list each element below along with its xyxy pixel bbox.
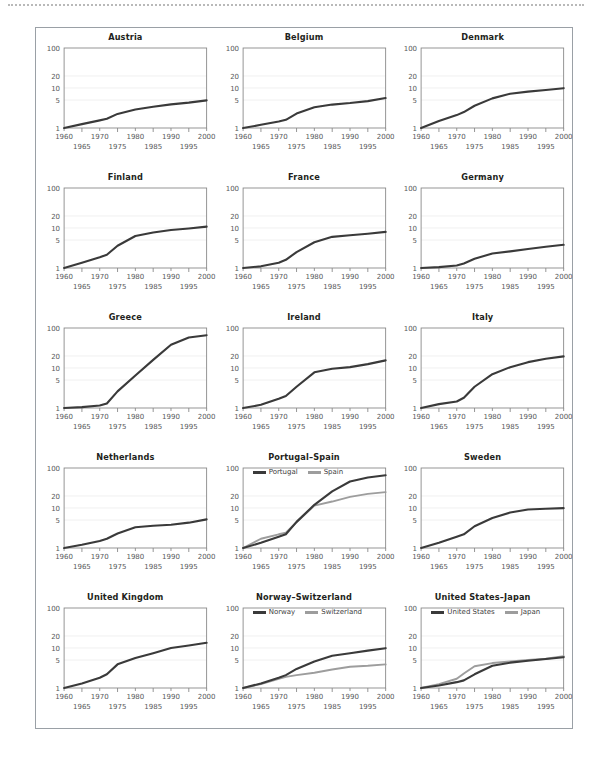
svg-text:1960: 1960 (234, 132, 252, 141)
svg-text:10: 10 (51, 504, 60, 513)
svg-text:1975: 1975 (109, 422, 127, 431)
svg-text:1965: 1965 (73, 282, 91, 291)
plot-area: 1510201001960197019801990200019651975198… (393, 602, 572, 718)
svg-text:100: 100 (47, 44, 60, 53)
panel-title: France (215, 172, 394, 182)
svg-text:2000: 2000 (198, 552, 216, 561)
svg-text:1990: 1990 (162, 552, 180, 561)
svg-text:1965: 1965 (252, 142, 270, 151)
legend-item: Norway (253, 608, 296, 616)
svg-text:1980: 1980 (126, 412, 144, 421)
legend-swatch-icon (305, 611, 318, 614)
svg-text:100: 100 (225, 184, 238, 193)
chart-panel: United States–Japan151020100196019701980… (393, 588, 572, 728)
chart-panel: France1510201001960197019801990200019651… (215, 168, 394, 308)
svg-text:1990: 1990 (341, 132, 359, 141)
chart-panel: Finland151020100196019701980199020001965… (36, 168, 215, 308)
svg-text:5: 5 (56, 656, 60, 665)
svg-text:10: 10 (230, 84, 239, 93)
svg-text:100: 100 (404, 44, 417, 53)
svg-text:1965: 1965 (73, 142, 91, 151)
svg-text:1970: 1970 (269, 692, 287, 701)
svg-text:5: 5 (413, 236, 417, 245)
svg-text:1990: 1990 (162, 692, 180, 701)
svg-text:10: 10 (51, 364, 60, 373)
svg-text:1985: 1985 (144, 562, 162, 571)
svg-text:1995: 1995 (359, 142, 377, 151)
svg-text:1980: 1980 (484, 412, 502, 421)
svg-text:1975: 1975 (287, 702, 305, 711)
legend-item: Japan (505, 608, 541, 616)
svg-text:1995: 1995 (537, 422, 555, 431)
svg-text:1965: 1965 (430, 282, 448, 291)
svg-text:5: 5 (413, 516, 417, 525)
svg-text:1960: 1960 (234, 272, 252, 281)
svg-text:1975: 1975 (287, 282, 305, 291)
chart-legend: NorwaySwitzerland (253, 608, 362, 616)
svg-text:100: 100 (47, 604, 60, 613)
svg-text:1975: 1975 (287, 562, 305, 571)
svg-text:1965: 1965 (252, 702, 270, 711)
svg-text:1985: 1985 (144, 422, 162, 431)
svg-text:1975: 1975 (109, 562, 127, 571)
svg-text:1990: 1990 (519, 272, 537, 281)
series-line (243, 648, 386, 688)
series-line (64, 519, 207, 548)
svg-text:1985: 1985 (144, 282, 162, 291)
svg-text:1970: 1970 (448, 272, 466, 281)
svg-text:1985: 1985 (502, 562, 520, 571)
legend-label: Norway (269, 608, 296, 616)
chart-panel: Sweden1510201001960197019801990200019651… (393, 448, 572, 588)
legend-swatch-icon (253, 611, 266, 614)
svg-text:10: 10 (408, 644, 417, 653)
svg-text:1980: 1980 (126, 692, 144, 701)
svg-text:20: 20 (408, 632, 417, 641)
panel-title: Netherlands (36, 452, 215, 462)
chart-panel: Denmark151020100196019701980199020001965… (393, 28, 572, 168)
svg-text:1975: 1975 (466, 702, 484, 711)
legend-label: Japan (521, 608, 541, 616)
svg-text:1975: 1975 (109, 702, 127, 711)
svg-text:100: 100 (225, 44, 238, 53)
svg-text:1960: 1960 (55, 412, 73, 421)
chart-panel: Portugal–Spain15102010019601970198019902… (215, 448, 394, 588)
svg-text:1985: 1985 (502, 702, 520, 711)
svg-text:1970: 1970 (269, 552, 287, 561)
svg-text:2000: 2000 (376, 272, 394, 281)
legend-item: United States (431, 608, 494, 616)
svg-text:100: 100 (404, 324, 417, 333)
svg-text:10: 10 (51, 644, 60, 653)
svg-text:100: 100 (225, 464, 238, 473)
svg-text:1960: 1960 (413, 412, 431, 421)
svg-text:2000: 2000 (376, 692, 394, 701)
svg-text:5: 5 (413, 376, 417, 385)
svg-text:1965: 1965 (252, 422, 270, 431)
svg-text:1975: 1975 (466, 562, 484, 571)
svg-text:100: 100 (404, 464, 417, 473)
svg-text:100: 100 (47, 464, 60, 473)
svg-text:2000: 2000 (555, 272, 573, 281)
svg-text:1960: 1960 (413, 692, 431, 701)
panel-title: Germany (393, 172, 572, 182)
svg-text:20: 20 (51, 212, 60, 221)
svg-text:1960: 1960 (413, 132, 431, 141)
svg-text:100: 100 (404, 184, 417, 193)
svg-text:10: 10 (408, 504, 417, 513)
chart-legend: PortugalSpain (253, 468, 344, 476)
series-line (421, 656, 564, 688)
svg-text:100: 100 (47, 324, 60, 333)
svg-text:1980: 1980 (305, 412, 323, 421)
panel-title: Italy (393, 312, 572, 322)
svg-text:100: 100 (404, 604, 417, 613)
svg-text:5: 5 (234, 656, 238, 665)
chart-panel: Austria151020100196019701980199020001965… (36, 28, 215, 168)
svg-text:20: 20 (408, 72, 417, 81)
svg-text:1960: 1960 (413, 552, 431, 561)
svg-text:1995: 1995 (180, 702, 198, 711)
plot-area: 1510201001960197019801990200019651975198… (215, 42, 394, 158)
svg-text:1970: 1970 (269, 412, 287, 421)
plot-area: 1510201001960197019801990200019651975198… (36, 602, 215, 718)
svg-text:20: 20 (408, 212, 417, 221)
svg-text:1960: 1960 (234, 412, 252, 421)
svg-text:1985: 1985 (502, 422, 520, 431)
